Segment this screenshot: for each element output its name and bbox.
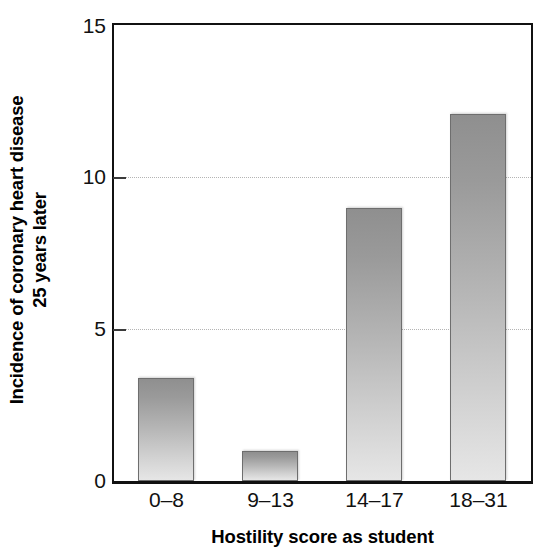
bar-18–31 — [450, 114, 506, 481]
x-axis-tick-labels: 0–89–1314–1718–31 — [112, 489, 533, 521]
x-axis-title: Hostility score as student — [112, 526, 533, 548]
bar-9–13 — [242, 451, 298, 481]
y-tick-label-5: 5 — [64, 318, 106, 339]
bar-14–17 — [346, 208, 402, 481]
bar-chart-figure: Incidence of coronary heart disease 25 y… — [0, 0, 550, 556]
x-tick-label-14–17: 14–17 — [323, 489, 427, 510]
bar-0–8 — [138, 378, 194, 481]
y-axis-title-container: Incidence of coronary heart disease 25 y… — [0, 0, 56, 500]
x-tick-label-9–13: 9–13 — [219, 489, 323, 510]
y-axis-title-line-2: 25 years later — [28, 96, 51, 405]
x-tick-label-0–8: 0–8 — [115, 489, 219, 510]
y-tick-label-10: 10 — [64, 166, 106, 187]
y-tick-mark-5 — [113, 329, 126, 331]
y-axis-title: Incidence of coronary heart disease 25 y… — [5, 96, 51, 405]
y-axis-tick-labels: 051015 — [58, 0, 106, 556]
plot-inner — [114, 25, 531, 481]
y-tick-mark-10 — [113, 177, 126, 179]
y-tick-label-0: 0 — [64, 470, 106, 491]
plot-area — [112, 23, 533, 484]
y-tick-label-15: 15 — [64, 15, 106, 36]
x-tick-label-18–31: 18–31 — [427, 489, 531, 510]
y-axis-title-line-1: Incidence of coronary heart disease — [5, 96, 28, 405]
